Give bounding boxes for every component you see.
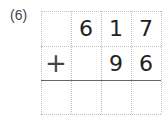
digit-cell: 9 xyxy=(101,46,131,80)
digit-cell: 1 xyxy=(101,11,131,45)
digit-cell: 6 xyxy=(71,11,101,45)
grid-line xyxy=(41,114,161,115)
answer-cell[interactable] xyxy=(41,80,71,114)
answer-cell[interactable] xyxy=(71,80,101,114)
plus-sign: + xyxy=(41,46,71,80)
answer-cell[interactable] xyxy=(101,80,131,114)
grid-line xyxy=(161,11,162,114)
digit-cell xyxy=(41,11,71,45)
addition-grid: 6 1 7 + 9 6 xyxy=(41,11,161,114)
answer-cell[interactable] xyxy=(131,80,161,114)
digit-cell xyxy=(71,46,101,80)
digit-cell: 7 xyxy=(131,11,161,45)
problem-number: (6) xyxy=(10,7,27,23)
digit-cell: 6 xyxy=(131,46,161,80)
